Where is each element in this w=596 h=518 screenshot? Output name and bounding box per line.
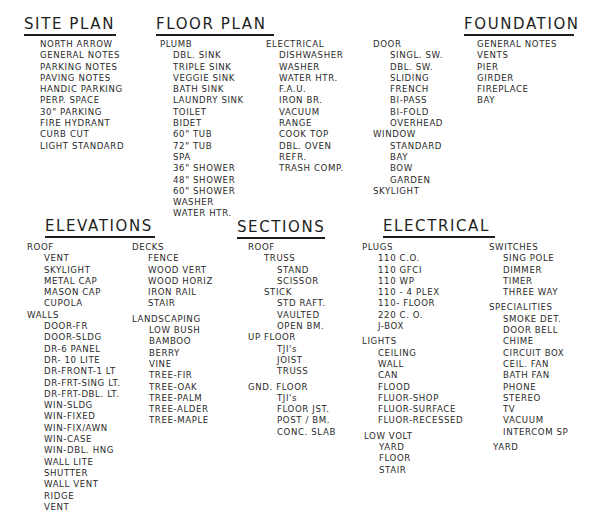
list-item: INTERCOM SP bbox=[489, 427, 568, 438]
electrical-title: ELECTRICAL bbox=[383, 218, 495, 238]
list-item: BATH SINK bbox=[160, 84, 244, 95]
foundation-list: GENERAL NOTES VENTS PIER GIRDER FIREPLAC… bbox=[477, 39, 557, 107]
group-label-specialities: SPECIALITIES bbox=[489, 302, 568, 313]
group-label-low-volt: LOW VOLT bbox=[362, 431, 463, 442]
list-item: VENTS bbox=[477, 50, 557, 61]
list-item: LAUNDRY SINK bbox=[160, 95, 244, 106]
list-item: TREE-PALM bbox=[132, 393, 213, 404]
list-item: BIDET bbox=[160, 118, 244, 129]
list-item: STAIR bbox=[132, 298, 213, 309]
list-item: BERRY bbox=[132, 348, 213, 359]
group-label-decks: DECKS bbox=[132, 242, 213, 253]
list-item: 110 WP bbox=[362, 276, 463, 287]
list-item: 60" SHOWER bbox=[160, 186, 244, 197]
list-item: WALL VENT bbox=[27, 479, 121, 490]
list-item: 110- FLOOR bbox=[362, 298, 463, 309]
list-item: OPEN BM. bbox=[248, 321, 336, 332]
list-item: SKYLIGHT bbox=[27, 265, 121, 276]
list-item: CEIL. FAN bbox=[489, 359, 568, 370]
group-label-up-floor: UP FLOOR bbox=[248, 332, 336, 343]
group-label-roof: ROOF bbox=[27, 242, 121, 253]
list-item: SHUTTER bbox=[27, 468, 121, 479]
list-item: WALL LITE bbox=[27, 457, 121, 468]
list-item: STEREO bbox=[489, 393, 568, 404]
list-item: FLOOR JST. bbox=[248, 404, 336, 415]
list-item: CONC. SLAB bbox=[248, 427, 336, 438]
list-item: METAL CAP bbox=[27, 276, 121, 287]
list-item: BI-PASS bbox=[373, 95, 443, 106]
list-item: 220 C. O. bbox=[362, 310, 463, 321]
list-item: VENT bbox=[27, 253, 121, 264]
list-item: TRASH COMP. bbox=[266, 163, 344, 174]
list-item: TREE-ALDER bbox=[132, 404, 213, 415]
list-item: DOOR-FR bbox=[27, 321, 121, 332]
list-item: WIN-FIXED bbox=[27, 411, 121, 422]
list-item: LOW BUSH bbox=[132, 325, 213, 336]
list-item: DOOR BELL bbox=[489, 325, 568, 336]
list-item: CIRCUIT BOX bbox=[489, 348, 568, 359]
list-item: J-BOX bbox=[362, 321, 463, 332]
list-item: WOOD HORIZ bbox=[132, 276, 213, 287]
list-item: SCISSOR bbox=[248, 276, 336, 287]
subgroup-label-truss: TRUSS bbox=[248, 253, 336, 264]
site-plan-title: SITE PLAN bbox=[24, 16, 116, 36]
sections-list: ROOF TRUSS STAND SCISSOR STICK STD RAFT.… bbox=[248, 242, 336, 438]
list-item: OVERHEAD bbox=[373, 118, 443, 129]
list-item: 36" SHOWER bbox=[160, 163, 244, 174]
list-item: YARD bbox=[362, 442, 463, 453]
list-item: DISHWASHER bbox=[266, 50, 344, 61]
list-item: TOILET bbox=[160, 107, 244, 118]
list-item: CEILING bbox=[362, 348, 463, 359]
list-item: VACUUM bbox=[266, 107, 344, 118]
list-item: SLIDING bbox=[373, 73, 443, 84]
list-item: 30" PARKING bbox=[40, 107, 124, 118]
list-item: CAN bbox=[362, 370, 463, 381]
site-plan-list: NORTH ARROW GENERAL NOTES PARKING NOTES … bbox=[40, 39, 124, 152]
list-item: DR- 10 LITE bbox=[27, 355, 121, 366]
list-item: IRON BR. bbox=[266, 95, 344, 106]
group-label-landscaping: LANDSCAPING bbox=[132, 314, 213, 325]
list-item: TREE-OAK bbox=[132, 382, 213, 393]
group-label-door: DOOR bbox=[373, 39, 443, 50]
list-item-yard: YARD bbox=[489, 442, 568, 453]
list-item: WASHER bbox=[160, 197, 244, 208]
list-item: FLUOR-RECESSED bbox=[362, 415, 463, 426]
list-item: TIMER bbox=[489, 276, 568, 287]
list-item: WASHER bbox=[266, 62, 344, 73]
list-item: TJI's bbox=[248, 393, 336, 404]
list-item: BAY bbox=[477, 95, 557, 106]
list-item: TRIPLE SINK bbox=[160, 62, 244, 73]
list-item: LIGHT STANDARD bbox=[40, 141, 124, 152]
elevations-decks-landscaping-list: DECKS FENCE WOOD VERT WOOD HORIZ IRON RA… bbox=[132, 242, 213, 427]
list-item: STD RAFT. bbox=[248, 298, 336, 309]
group-label-lights: LIGHTS bbox=[362, 336, 463, 347]
subgroup-label-stick: STICK bbox=[248, 287, 336, 298]
list-item: FLUOR-SURFACE bbox=[362, 404, 463, 415]
list-item: POST / BM. bbox=[248, 415, 336, 426]
list-item: STANDARD bbox=[373, 141, 443, 152]
list-item: BAY bbox=[373, 152, 443, 163]
list-item: STAIR bbox=[362, 465, 463, 476]
floor-plan-door-window-list: DOOR SINGL. SW. DBL. SW. SLIDING FRENCH … bbox=[373, 39, 443, 197]
list-item: STAND bbox=[248, 265, 336, 276]
list-item: WATER HTR. bbox=[266, 73, 344, 84]
list-item: CURB CUT bbox=[40, 129, 124, 140]
list-item: FLUOR-SHOP bbox=[362, 393, 463, 404]
list-item: WIN-DBL. HNG bbox=[27, 445, 121, 456]
foundation-title: FOUNDATION bbox=[464, 16, 574, 36]
list-item: PERP. SPACE bbox=[40, 95, 124, 106]
list-item: PARKING NOTES bbox=[40, 62, 124, 73]
list-item: SING POLE bbox=[489, 253, 568, 264]
list-item: TREE-FIR bbox=[132, 370, 213, 381]
list-item: VENT bbox=[27, 502, 121, 513]
list-item: BATH FAN bbox=[489, 370, 568, 381]
list-item: REFR. bbox=[266, 152, 344, 163]
list-item: RANGE bbox=[266, 118, 344, 129]
floor-plan-plumb-list: PLUMB DBL. SINK TRIPLE SINK VEGGIE SINK … bbox=[160, 39, 244, 220]
list-item: TREE-MAPLE bbox=[132, 415, 213, 426]
list-item: FLOOD bbox=[362, 382, 463, 393]
list-item: DR-6 PANEL bbox=[27, 344, 121, 355]
list-item: DIMMER bbox=[489, 265, 568, 276]
list-item: F.A.U. bbox=[266, 84, 344, 95]
list-item: VEGGIE SINK bbox=[160, 73, 244, 84]
